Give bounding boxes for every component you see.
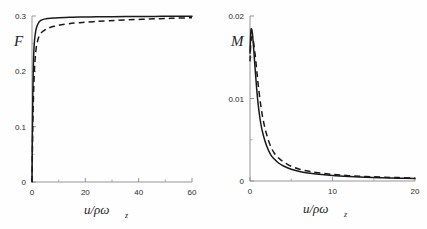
chart-panel-right: 0102000.010.02 M u/ρω z <box>213 0 427 229</box>
tick-group-left <box>32 16 192 182</box>
tick-group-right <box>250 16 415 181</box>
curve-solid-left <box>32 16 192 182</box>
curve-solid-right <box>250 29 415 179</box>
chart-panel-left: 020406000.10.20.3 F u/ρω z <box>0 0 213 229</box>
curve-dashed-left <box>32 18 192 182</box>
x-tick-label: 20 <box>81 188 90 197</box>
x-axis-title-left: u/ρω <box>84 202 110 217</box>
y-tick-label: 0 <box>240 177 245 186</box>
axes-right <box>250 16 415 181</box>
y-axis-title-right: M <box>230 33 245 49</box>
x-tick-label: 0 <box>248 187 253 196</box>
tick-label-group-right: 0102000.010.02 <box>228 12 420 196</box>
tick-label-group-left: 020406000.10.20.3 <box>15 12 197 197</box>
curve-dashed-right <box>250 37 415 178</box>
x-axis-title-sub-left: z <box>124 211 129 220</box>
y-tick-label: 0.02 <box>228 12 244 21</box>
y-tick-label: 0.01 <box>228 95 244 104</box>
chart-svg-left: 020406000.10.20.3 F u/ρω z <box>0 0 213 229</box>
x-axis-title-right: u/ρω <box>303 201 329 216</box>
chart-svg-right: 0102000.010.02 M u/ρω z <box>213 0 427 229</box>
x-tick-label: 40 <box>134 188 143 197</box>
axes-left <box>32 16 192 182</box>
x-axis-title-sub-right: z <box>343 210 348 219</box>
y-tick-label: 0.1 <box>15 123 27 132</box>
y-tick-label: 0 <box>22 178 27 187</box>
x-tick-label: 20 <box>411 187 420 196</box>
y-axis-title-left: F <box>13 33 24 49</box>
x-tick-label: 10 <box>328 187 337 196</box>
y-tick-label: 0.3 <box>15 12 27 21</box>
y-tick-label: 0.2 <box>15 67 27 76</box>
x-tick-label: 60 <box>188 188 197 197</box>
figure-container: 020406000.10.20.3 F u/ρω z 0102000.010.0… <box>0 0 427 229</box>
x-tick-label: 0 <box>30 188 35 197</box>
